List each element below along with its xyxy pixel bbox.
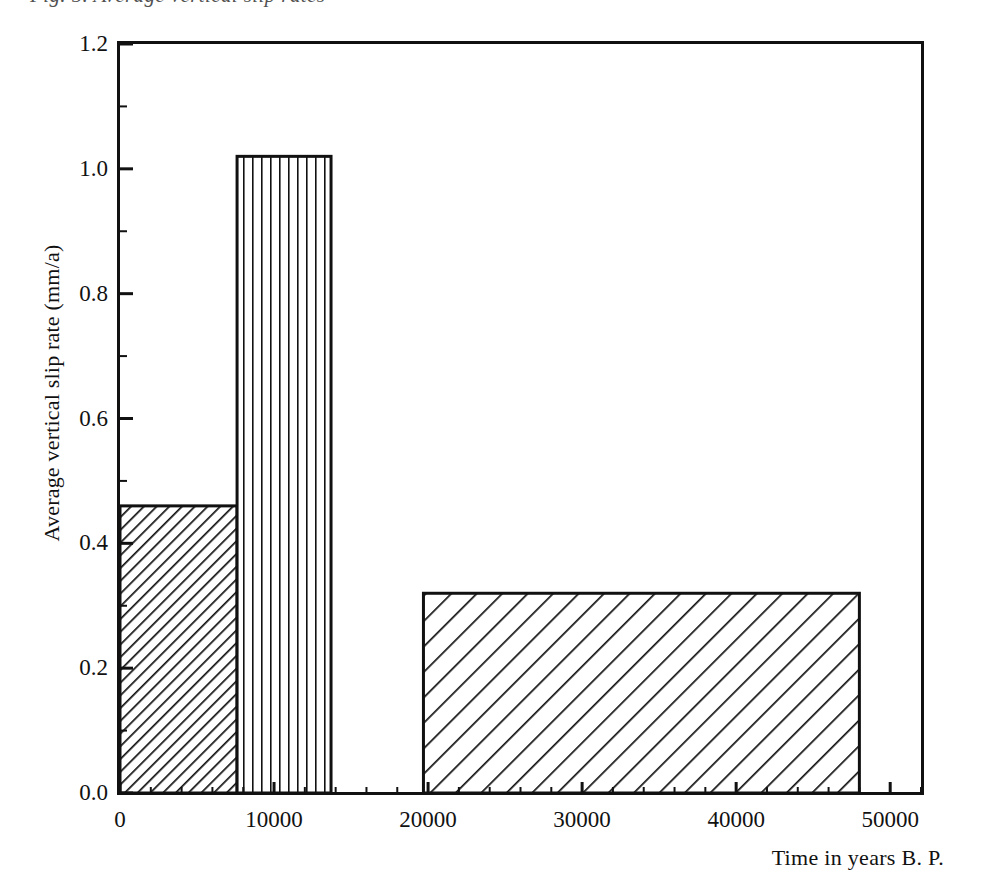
plot-area — [0, 0, 986, 889]
bar-1 — [120, 506, 237, 793]
figure-canvas: Fig. 5. Average vertical slip rates Aver… — [0, 0, 986, 889]
bars-group — [120, 156, 859, 793]
bar-3 — [423, 593, 859, 793]
bar-2 — [237, 156, 331, 793]
